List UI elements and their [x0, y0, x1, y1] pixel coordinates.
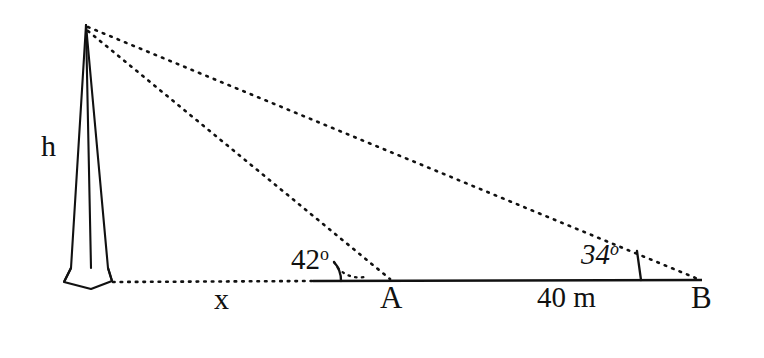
tower-base-pedestal	[64, 268, 112, 289]
label-point-a: A	[380, 282, 402, 313]
degree-symbol-a: o	[320, 244, 329, 264]
degree-symbol-b: o	[610, 239, 619, 259]
pedestal-right-flare	[108, 268, 112, 281]
baseline-a-to-b	[313, 280, 702, 281]
angle-a-value: 42	[291, 243, 320, 275]
angle-arc-a-dotted	[334, 262, 368, 277]
label-height: h	[41, 131, 56, 161]
label-distance-x: x	[214, 284, 229, 314]
tower-left-edge	[71, 25, 86, 268]
label-segment-ab: 40 m	[537, 283, 596, 312]
angle-arc-a-solid	[334, 262, 341, 281]
angle-b-value: 34	[581, 238, 610, 270]
label-point-b: B	[691, 282, 712, 313]
label-angle-b: 34o	[581, 240, 619, 269]
label-angle-a: 42o	[291, 245, 329, 274]
geometry-diagram: h x A B 40 m 42o 34o	[0, 0, 764, 358]
angle-tick-b	[637, 251, 641, 280]
ground-segment-x	[113, 281, 313, 282]
sight-line-to-a	[88, 31, 390, 279]
tower-shape	[64, 25, 112, 289]
pedestal-left-flare	[64, 268, 71, 282]
